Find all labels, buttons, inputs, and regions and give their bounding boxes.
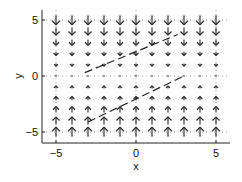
x-tick-label: −5: [50, 147, 63, 159]
x-tick-label: 5: [213, 147, 219, 159]
tick-labels: −505−505: [25, 14, 219, 159]
y-axis-label: y: [12, 73, 24, 79]
quiver-plot: −505−505 x y: [0, 0, 242, 182]
y-tick-label: 5: [32, 14, 38, 26]
y-tick-label: −5: [25, 126, 38, 138]
x-tick-label: 0: [133, 147, 139, 159]
y-tick-label: 0: [32, 70, 38, 82]
x-axis-label: x: [133, 160, 139, 172]
trajectory-line: [85, 35, 178, 73]
